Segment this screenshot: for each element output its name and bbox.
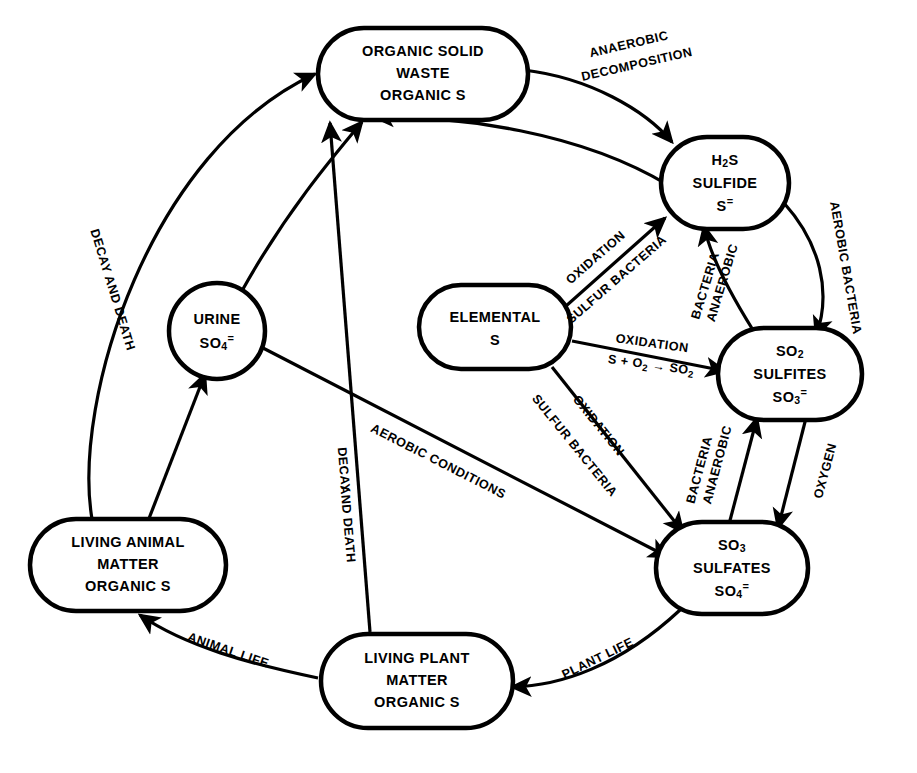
living-animal-line1: LIVING ANIMAL (71, 534, 184, 550)
edge-h2s-to-waste (374, 117, 668, 185)
living-animal-line2: MATTER (97, 556, 159, 572)
urine-node[interactable]: URINE SO4= (169, 283, 265, 379)
h2s-sulfide-label: SULFIDE (693, 175, 758, 191)
edge-so2-to-so3 (778, 418, 806, 528)
elemental-s-line1: ELEMENTAL (449, 309, 540, 325)
organic-solid-waste-node[interactable]: ORGANIC SOLID WASTE ORGANIC S (318, 28, 528, 120)
so3-sulfates-label: SULFATES (693, 560, 771, 576)
label-plant-life: PLANT LIFE (560, 635, 636, 682)
organic-solid-waste-line1: ORGANIC SOLID (362, 43, 484, 59)
label-aerobic-bacteria-right: AEROBIC BACTERIA (827, 200, 864, 335)
living-animal-matter-node[interactable]: LIVING ANIMAL MATTER ORGANIC S (30, 519, 226, 611)
edge-animal-to-urine (148, 374, 205, 521)
organic-solid-waste-line2: WASTE (396, 65, 450, 81)
h2s-sulfide-node[interactable]: H2S SULFIDE S= (661, 137, 789, 229)
elemental-sulfur-node[interactable]: ELEMENTAL S (419, 285, 571, 369)
urine-label: URINE (193, 311, 240, 327)
edge-so3-to-plant (512, 610, 680, 687)
living-plant-line3: ORGANIC S (374, 694, 460, 710)
edge-urine-to-so3 (263, 348, 668, 557)
cycle-canvas: ORGANIC SOLID WASTE ORGANIC S H2S SULFID… (0, 0, 917, 773)
sulfur-cycle-diagram: ORGANIC SOLID WASTE ORGANIC S H2S SULFID… (0, 0, 917, 773)
label-oxygen: OXYGEN (811, 442, 839, 501)
edge-waste-to-h2s (524, 70, 672, 142)
elemental-s-line2: S (490, 332, 500, 348)
living-plant-line1: LIVING PLANT (364, 650, 470, 666)
living-animal-line3: ORGANIC S (85, 578, 171, 594)
label-animal-life: ANIMAL LIFE (186, 630, 271, 671)
label-aerobic-conditions: AEROBIC CONDITIONS (368, 421, 508, 501)
edge-h2s-to-so2 (784, 203, 823, 336)
so3-sulfates-node[interactable]: SO3 SULFATES SO4= (656, 522, 808, 614)
so2-sulfites-label: SULFITES (753, 366, 826, 382)
so2-sulfites-node[interactable]: SO2 SULFITES SO3= (718, 328, 862, 420)
organic-solid-waste-line3: ORGANIC S (380, 87, 466, 103)
living-plant-matter-node[interactable]: LIVING PLANT MATTER ORGANIC S (321, 634, 513, 728)
edge-urine-to-waste (243, 122, 362, 289)
label-decay-and-death-mid-line2: AND DEATH (337, 485, 358, 564)
living-plant-line2: MATTER (386, 672, 448, 688)
